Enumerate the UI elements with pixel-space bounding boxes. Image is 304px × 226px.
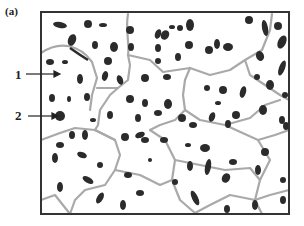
- annotation-arrows: [26, 71, 60, 119]
- grain-boundaries: [41, 14, 289, 214]
- panel-label: (a): [5, 6, 18, 17]
- arrowhead-1-icon: [54, 71, 60, 77]
- annotation-label-2: 2: [15, 109, 22, 122]
- annotation-label-1: 1: [15, 68, 22, 81]
- microstructure-diagram: [0, 0, 304, 226]
